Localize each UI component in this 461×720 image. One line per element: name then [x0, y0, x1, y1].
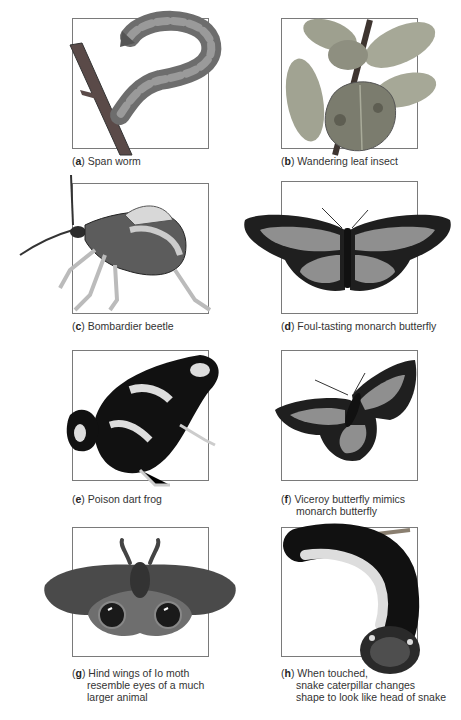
caption-b: (b) Wandering leaf insect: [281, 155, 398, 167]
snake-caterpillar-illustration: [280, 520, 440, 680]
viceroy-butterfly-illustration: [270, 355, 420, 470]
caption-c: (c) Bombardier beetle: [72, 320, 174, 332]
caption-g: (g) Hind wings of Io moth resemble eyes …: [72, 667, 204, 703]
caption-h: (h) When touched, snake caterpillar chan…: [281, 667, 446, 703]
poison-dart-frog-illustration: [60, 345, 230, 490]
caption-d: (d) Foul-tasting monarch butterfly: [281, 320, 436, 332]
leaf-insect-illustration: [270, 5, 440, 165]
caption-f: (f) Viceroy butterfly mimics monarch but…: [281, 493, 405, 517]
caption-e: (e) Poison dart frog: [72, 493, 162, 505]
bombardier-beetle-illustration: [15, 170, 215, 315]
monarch-butterfly-illustration: [240, 200, 455, 300]
span-worm-illustration: [60, 5, 220, 155]
caption-a: (a) Span worm: [72, 155, 141, 167]
io-moth-illustration: [40, 535, 240, 645]
